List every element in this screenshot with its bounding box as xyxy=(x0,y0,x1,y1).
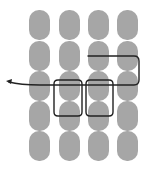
pill-r3-c3 xyxy=(88,71,109,101)
pill-r5-c1 xyxy=(29,131,50,161)
pill-r3-c4 xyxy=(117,71,138,101)
pill-r2-c1 xyxy=(29,41,50,71)
pill-r4-c4 xyxy=(117,101,138,131)
pill-r3-c2 xyxy=(59,71,80,101)
pill-r5-c3 xyxy=(88,131,109,161)
arrowhead-icon xyxy=(6,79,12,84)
pill-r1-c1 xyxy=(29,10,50,40)
pill-r3-c1 xyxy=(29,71,50,101)
pill-r5-c4 xyxy=(117,131,138,161)
pill-r1-c3 xyxy=(88,10,109,40)
pill-r5-c2 xyxy=(59,131,80,161)
pill-grid-diagram xyxy=(0,0,148,171)
pill-r1-c2 xyxy=(59,10,80,40)
pill-r1-c4 xyxy=(117,10,138,40)
pill-r2-c2 xyxy=(59,41,80,71)
pill-r4-c1 xyxy=(29,101,50,131)
